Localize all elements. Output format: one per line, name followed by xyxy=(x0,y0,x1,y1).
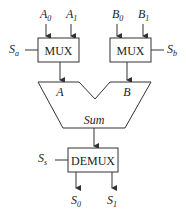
output-label-s1: S1 xyxy=(107,193,117,209)
input-label-a0: A0 xyxy=(39,7,51,23)
mux-left-label: MUX xyxy=(44,44,72,58)
demux-label: DEMUX xyxy=(71,154,115,168)
input-label-a1: A1 xyxy=(65,7,77,23)
adder-output-label: Sum xyxy=(84,113,105,127)
select-label-sa: Sa xyxy=(9,42,19,58)
adder-input-a-label: A xyxy=(55,85,64,99)
input-arrows xyxy=(46,24,143,36)
select-label-ss: Ss xyxy=(38,151,47,167)
input-label-b1: B1 xyxy=(138,7,149,23)
mux-right-label: MUX xyxy=(116,44,144,58)
mux-adder-demux-diagram: A0 A1 B0 B1 MUX Sa MUX Sb A B Sum DEMUX … xyxy=(0,0,186,218)
select-label-sb: Sb xyxy=(167,42,177,58)
adder-input-b-label: B xyxy=(123,85,131,99)
output-label-s0: S0 xyxy=(71,193,81,209)
input-label-b0: B0 xyxy=(112,7,123,23)
